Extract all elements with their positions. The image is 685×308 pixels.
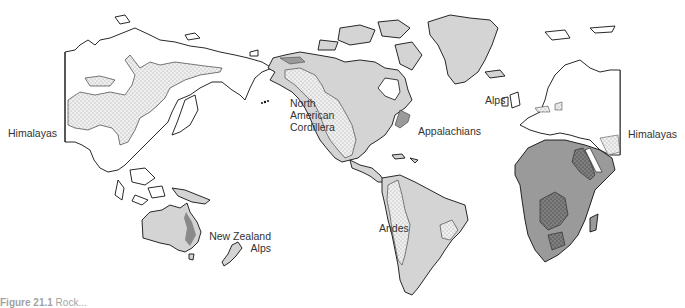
label-alps: Alps [485,94,505,106]
africa-landmass [515,140,615,262]
label-appalachians: Appalachians [418,125,481,137]
australia-landmass [142,203,201,260]
label-andes: Andes [379,222,409,234]
south-america-landmass [382,175,468,295]
label-himalayas-right: Himalayas [628,128,677,140]
caption-prefix: Figure 21.1 [0,297,53,308]
label-cordillera-line-3: Cordillera [290,121,335,133]
figure-caption: Figure 21.1 Rock... [0,297,87,308]
label-cordillera-line-2: American [290,109,335,121]
label-nz-line-2: Alps [208,242,271,254]
label-nz-line-1: New Zealand [208,230,271,242]
label-new-zealand-alps: New Zealand Alps [208,230,271,254]
caption-text: Rock... [56,297,87,308]
label-north-american-cordillera: North American Cordillera [290,97,335,133]
label-cordillera-line-1: North [290,97,335,109]
label-himalayas-left: Himalayas [8,127,57,139]
new-guinea [172,188,210,204]
europe-landmass [485,26,620,155]
